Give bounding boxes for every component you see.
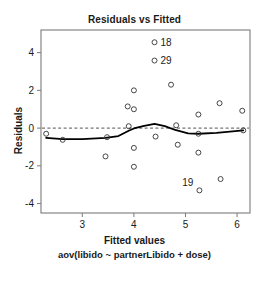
y-tick-label: 2 <box>28 85 34 96</box>
x-tick-label: 3 <box>80 219 86 230</box>
model-formula-caption: aov(libido ~ partnerLibido + dose) <box>0 249 269 260</box>
y-axis-title: Residuals <box>13 81 24 181</box>
y-tick-label: -4 <box>25 198 34 209</box>
x-tick-label: 5 <box>183 219 189 230</box>
outlier-label: 19 <box>182 177 194 188</box>
x-tick-label: 6 <box>234 219 240 230</box>
outlier-label: 29 <box>161 55 173 66</box>
y-tick-label: -2 <box>25 160 34 171</box>
outlier-label: 18 <box>161 37 173 48</box>
chart-title: Residuals vs Fitted <box>0 14 269 25</box>
y-tick-label: 0 <box>28 123 34 134</box>
x-tick-label: 4 <box>131 219 137 230</box>
y-tick-label: 4 <box>28 47 34 58</box>
residuals-vs-fitted-plot: 3456 420-2-4 182919 Residuals vs Fitted … <box>0 0 269 282</box>
x-axis-title: Fitted values <box>0 235 269 246</box>
